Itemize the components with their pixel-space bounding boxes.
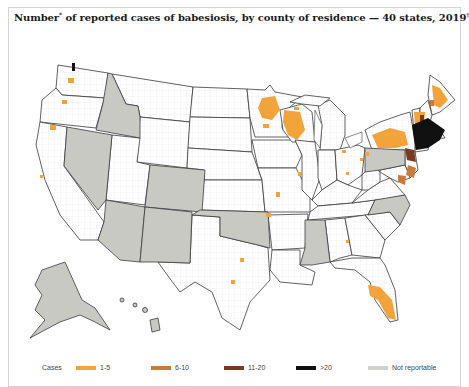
- legend-item-1-5: 1-5: [76, 364, 110, 371]
- state-wyoming: [137, 117, 190, 168]
- legend-label: Cases: [42, 364, 62, 371]
- legend-item-over-20: >20: [296, 364, 332, 371]
- state-new-mexico: [140, 207, 192, 263]
- legend-item-label: 11-20: [248, 364, 265, 371]
- legend-item-6-10: 6-10: [151, 364, 189, 371]
- swatch-over-20: [296, 366, 316, 370]
- state-arizona: [98, 200, 145, 262]
- legend-title: Cases: [42, 364, 62, 371]
- legend-item-not-reportable: Not reportable: [368, 364, 436, 371]
- legend-item-label: Not reportable: [392, 364, 436, 371]
- state-washington: [56, 65, 108, 98]
- legend-item-label: 6-10: [175, 364, 189, 371]
- legend-item-label: >20: [320, 364, 332, 371]
- state-north-dakota: [190, 87, 250, 118]
- legend-item-11-20: 11-20: [224, 364, 265, 371]
- state-alaska: [30, 262, 110, 338]
- state-colorado: [145, 165, 205, 212]
- swatch-6-10: [151, 366, 171, 370]
- swatch-not-reportable: [368, 366, 388, 370]
- legend: Cases 1-5 6-10 11-20 >20 Not reportable: [38, 362, 448, 376]
- state-arkansas: [268, 214, 308, 250]
- state-hawaii: [120, 298, 160, 332]
- state-kansas: [200, 180, 265, 212]
- state-ohio: [335, 145, 365, 185]
- swatch-11-20: [224, 366, 244, 370]
- state-iowa: [252, 140, 302, 168]
- state-south-dakota: [188, 117, 252, 152]
- swatch-1-5: [76, 366, 96, 370]
- legend-item-label: 1-5: [100, 364, 110, 371]
